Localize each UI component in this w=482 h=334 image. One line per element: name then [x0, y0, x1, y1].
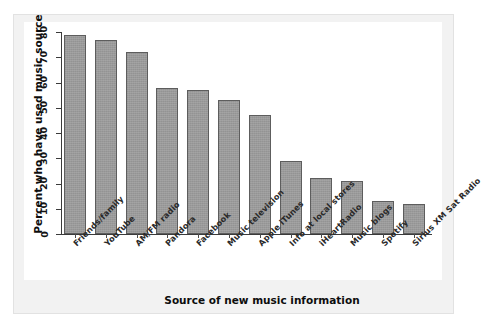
y-axis-tick [56, 32, 61, 33]
y-axis-tick [56, 133, 61, 134]
y-axis-tick-label: 30 [36, 152, 52, 164]
bar [187, 90, 209, 234]
x-axis-title-text: Source of new music information [108, 294, 359, 306]
y-axis-line [61, 32, 62, 234]
y-axis-tick [56, 57, 61, 58]
x-axis-title: Source of new music information [0, 294, 468, 306]
y-axis-tick [56, 108, 61, 109]
y-axis-tick-label: 50 [36, 102, 52, 114]
y-axis-tick [56, 83, 61, 84]
y-axis-tick-label: 20 [36, 178, 52, 190]
bar [126, 52, 148, 234]
y-axis-tick-label: 10 [36, 203, 52, 215]
y-axis-tick-label: 60 [36, 77, 52, 89]
bar [64, 35, 86, 234]
y-axis-tick-label: 40 [36, 127, 52, 139]
y-axis-tick [56, 158, 61, 159]
y-axis-tick [56, 234, 61, 235]
y-axis-tick [56, 184, 61, 185]
y-axis-tick-label: 70 [36, 51, 52, 63]
y-axis-tick-label: 0 [36, 228, 52, 240]
y-axis-tick-label: 80 [36, 26, 52, 38]
y-axis-tick [56, 209, 61, 210]
